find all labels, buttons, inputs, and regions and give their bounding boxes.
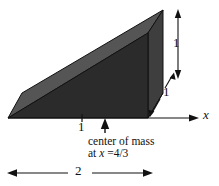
center-of-mass-caption-line1: center of mass: [88, 135, 154, 147]
center-of-mass-caption-line2: at x =4/3: [88, 147, 128, 159]
tick-label-one: 1: [78, 120, 85, 134]
height-dimension-arrow-up: [175, 9, 181, 18]
center-of-mass-arrowhead: [101, 118, 109, 129]
com-caption-prefix: at: [88, 147, 99, 159]
height-dimension-arrow-down: [175, 70, 181, 79]
width-dimension-arrow-left: [7, 169, 17, 176]
height-dimension-label: 1: [173, 36, 180, 50]
depth-dimension-label: 1: [163, 85, 170, 99]
solid-front-face: [8, 33, 148, 118]
width-dimension-arrow-right: [143, 169, 153, 176]
width-dimension-label: 2: [75, 164, 82, 178]
com-caption-value: =4/3: [104, 147, 128, 159]
x-axis-label: x: [203, 108, 209, 122]
x-axis-arrowhead: [189, 115, 199, 122]
